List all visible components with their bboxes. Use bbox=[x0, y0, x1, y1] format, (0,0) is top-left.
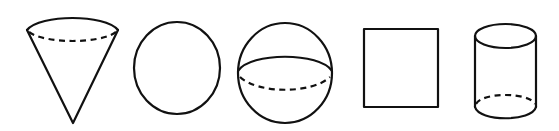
cylinder-shape: Cylinder bbox=[475, 24, 536, 118]
circle-shape: Circle bbox=[134, 22, 220, 114]
square-shape: Square bbox=[364, 29, 438, 107]
shapes-figure: Geometric shapes Cone Circle Sphere bbox=[0, 0, 559, 131]
sphere-equator-hidden bbox=[240, 77, 330, 90]
square-outline bbox=[364, 29, 438, 107]
cone-shape: Cone bbox=[27, 18, 118, 123]
sphere-shape: Sphere bbox=[238, 23, 332, 123]
cylinder-bottom-front bbox=[475, 107, 536, 118]
cone-rim-front bbox=[27, 18, 118, 30]
sphere-equator-front bbox=[238, 57, 332, 71]
cone-sides bbox=[27, 30, 118, 123]
sphere-outline bbox=[238, 23, 332, 123]
cone-rim-hidden bbox=[29, 32, 116, 41]
cylinder-top bbox=[475, 24, 536, 48]
cylinder-bottom-hidden bbox=[476, 95, 535, 104]
shapes-canvas: Cone Circle Sphere Square bbox=[0, 0, 559, 131]
circle-outline bbox=[134, 22, 220, 114]
